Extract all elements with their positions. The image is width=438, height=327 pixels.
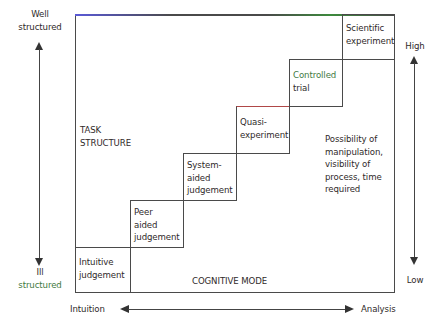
- well-structured-label: Well structured: [8, 8, 72, 33]
- possibility-label: Possibility of manipulation, visibility …: [325, 133, 383, 196]
- arrow-down-icon: [35, 258, 43, 266]
- step-label-line: aided: [187, 172, 236, 185]
- step-scientific-experiment: Scientific experiment: [342, 14, 395, 60]
- step-controlled-trial: Controlled trial: [289, 59, 343, 107]
- step-label-line: experiment: [346, 35, 394, 48]
- possibility-line: manipulation,: [325, 146, 383, 159]
- step-peer-aided-judgement: Peer aided judgement: [130, 200, 184, 248]
- bottom-axis-line: [128, 309, 346, 310]
- step-label-line: aided: [134, 219, 183, 232]
- possibility-line: Possibility of: [325, 133, 383, 146]
- analysis-label: Analysis: [361, 303, 396, 316]
- task-structure-line2: STRUCTURE: [80, 137, 131, 150]
- step-label-line: Quasi-: [240, 116, 289, 129]
- step-label-line: experiment: [240, 129, 289, 142]
- step-label-line: System-: [187, 159, 236, 172]
- low-label: Low: [398, 274, 432, 287]
- step-quasi-experiment: Quasi- experiment: [236, 106, 290, 154]
- step-label-line: judgement: [79, 269, 130, 282]
- intuition-label: Intuition: [70, 303, 105, 316]
- left-axis-line: [39, 49, 40, 259]
- step-label-line: Intuitive: [79, 256, 130, 269]
- arrow-right-icon: [345, 305, 354, 313]
- step-intuitive-judgement: Intuitive judgement: [75, 247, 131, 293]
- ill-structured-label-line2: structured: [8, 279, 72, 292]
- high-label: High: [398, 40, 432, 53]
- step-label-line: Scientific: [346, 22, 394, 35]
- step-label-line: Controlled: [293, 69, 342, 82]
- step-label-line: judgement: [187, 184, 236, 197]
- right-axis-line: [414, 63, 415, 258]
- cognitive-mode-label: COGNITIVE MODE: [192, 275, 267, 288]
- step-label-line: judgement: [134, 231, 183, 244]
- well-structured-label-line2: structured: [8, 21, 72, 34]
- possibility-line: process, time: [325, 171, 383, 184]
- step-label-line: Peer: [134, 206, 183, 219]
- step-system-aided-judgement: System- aided judgement: [183, 153, 237, 201]
- well-structured-label-line1: Well: [8, 8, 72, 21]
- task-structure-line1: TASK: [80, 124, 131, 137]
- task-structure-label: TASK STRUCTURE: [80, 124, 131, 149]
- arrow-down-icon: [410, 257, 418, 265]
- possibility-line: visibility of: [325, 158, 383, 171]
- ill-structured-label: Ill structured: [8, 266, 72, 291]
- ill-structured-label-line1: Ill: [8, 266, 72, 279]
- possibility-line: required: [325, 183, 383, 196]
- step-label-line: trial: [293, 82, 342, 95]
